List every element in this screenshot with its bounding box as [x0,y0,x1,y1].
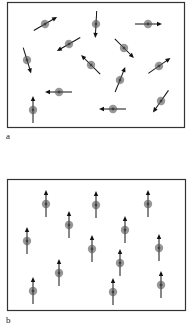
panel-a-random-spins [8,3,185,128]
spin-arrow-icon [111,65,129,93]
spin-arrow-icon [19,46,35,74]
spin-arrow-icon [157,271,165,298]
spin-arrow-icon [55,34,83,55]
panel-b-label: b [6,315,11,325]
spin-arrow-icon [121,216,129,243]
spin-arrow-icon [92,191,100,218]
spin-arrow-icon [42,190,50,217]
spin-arrow-icon [78,52,103,77]
spin-arrow-icon [55,259,63,286]
spin-arrow-icon [112,36,137,61]
panel-b-aligned-spins [8,180,186,311]
spin-arrow-icon [146,55,173,77]
spin-arrow-icon [23,227,31,254]
panel-a-label: a [6,131,10,141]
spin-arrow-icon [144,190,152,217]
spin-arrow-icon [109,278,117,305]
spin-arrow-icon [65,211,73,238]
spin-arrow-icon [91,11,101,38]
spin-arrow-icon [88,235,96,262]
spin-arrow-icon [45,88,72,96]
spin-arrow-icon [116,249,124,276]
spin-arrow-icon [29,277,37,304]
spin-arrow-icon [135,20,162,28]
spin-arrow-icon [29,96,37,123]
spin-arrow-icon [99,105,126,113]
spin-arrow-icon [150,88,172,115]
spin-arrow-icon [32,13,60,34]
spin-diagram [0,0,195,327]
spin-arrow-icon [155,234,163,261]
